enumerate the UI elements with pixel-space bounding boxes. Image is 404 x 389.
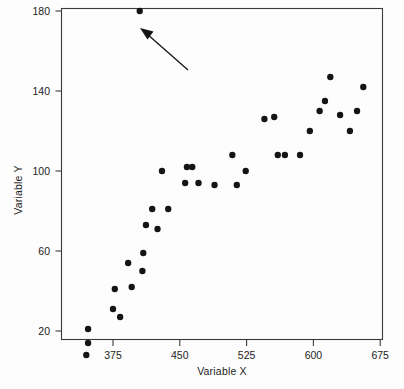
scatter-point [85, 340, 91, 346]
scatter-point [159, 168, 165, 174]
chart-canvas: 2060100140180 375450525600675 Variable X… [0, 0, 404, 389]
y-axis-title: Variable Y [12, 165, 24, 214]
scatter-point [117, 314, 123, 320]
y-tick-label: 100 [32, 165, 50, 177]
scatter-point [337, 112, 343, 118]
scatter-point [234, 182, 240, 188]
y-axis-tick-labels: 2060100140180 [32, 5, 50, 337]
scatter-point [271, 114, 277, 120]
scatter-point [243, 168, 249, 174]
scatter-point [83, 352, 89, 358]
scatter-point [182, 180, 188, 186]
scatter-point [347, 128, 353, 134]
scatter-point [354, 108, 360, 114]
scatter-point [110, 306, 116, 312]
scatter-plot-figure: 2060100140180 375450525600675 Variable X… [0, 0, 404, 389]
scatter-point [316, 108, 322, 114]
scatter-point [165, 206, 171, 212]
scatter-point [125, 260, 131, 266]
y-tick-label: 140 [32, 85, 50, 97]
x-axis-tick-labels: 375450525600675 [104, 349, 389, 361]
scatter-point [85, 326, 91, 332]
scatter-point [282, 152, 288, 158]
annotation-arrow-shaft [147, 34, 189, 71]
x-tick-label: 375 [104, 349, 122, 361]
scatter-point [129, 284, 135, 290]
y-axis-ticks [56, 11, 62, 331]
scatter-point [140, 250, 146, 256]
y-tick-label: 60 [38, 245, 50, 257]
scatter-point [137, 8, 143, 14]
scatter-point [275, 152, 281, 158]
x-tick-label: 525 [238, 349, 256, 361]
scatter-point [211, 182, 217, 188]
scatter-point [143, 222, 149, 228]
scatter-point [297, 152, 303, 158]
scatter-point [139, 268, 145, 274]
x-axis-title: Variable X [197, 365, 247, 377]
x-tick-label: 675 [371, 349, 389, 361]
x-tick-label: 600 [305, 349, 323, 361]
scatter-point [154, 226, 160, 232]
scatter-point [261, 116, 267, 122]
scatter-point [149, 206, 155, 212]
outlier-annotation-arrow [140, 28, 188, 70]
scatter-point [229, 152, 235, 158]
scatter-point [360, 84, 366, 90]
y-tick-label: 180 [32, 5, 50, 17]
scatter-point [327, 74, 333, 80]
x-axis-ticks [113, 340, 380, 347]
x-tick-label: 450 [171, 349, 189, 361]
y-tick-label: 20 [38, 325, 50, 337]
scatter-point [189, 164, 195, 170]
scatter-point [307, 128, 313, 134]
scatter-point [322, 98, 328, 104]
scatter-point [195, 180, 201, 186]
plot-frame [62, 9, 383, 340]
scatter-points-group [83, 8, 366, 358]
scatter-point [112, 286, 118, 292]
